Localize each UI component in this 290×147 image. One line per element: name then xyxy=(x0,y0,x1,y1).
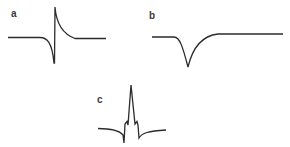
waveform-c xyxy=(0,0,290,147)
